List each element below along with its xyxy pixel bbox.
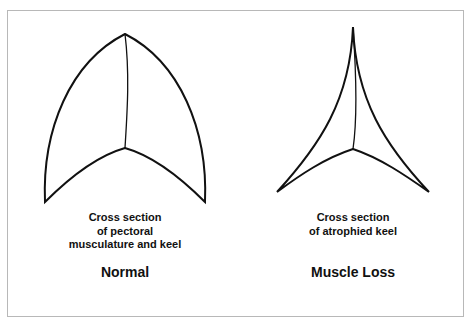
caption-line: of pectoral	[55, 225, 195, 239]
muscle-loss-caption: Cross section of atrophied keel	[283, 211, 423, 238]
caption-line: Cross section	[283, 211, 423, 225]
normal-caption: Cross section of pectoral musculature an…	[55, 211, 195, 252]
caption-line: Cross section	[55, 211, 195, 225]
caption-line: of atrophied keel	[283, 225, 423, 239]
diagram-canvas	[0, 0, 475, 331]
normal-title: Normal	[75, 264, 175, 280]
muscle-loss-title: Muscle Loss	[293, 264, 413, 280]
atrophied-cross-section-shape	[277, 27, 429, 192]
normal-cross-section-shape	[45, 34, 205, 202]
caption-line: musculature and keel	[55, 238, 195, 252]
